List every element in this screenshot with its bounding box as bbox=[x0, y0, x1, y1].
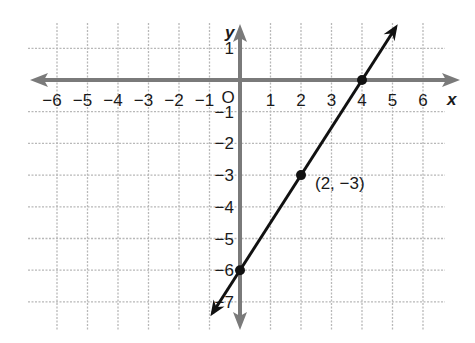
tick-labels: −6−5−4−3−2−11234561−1−2−3−4−5−6−7Oxy bbox=[42, 23, 458, 312]
data-point bbox=[296, 170, 306, 180]
x-tick-label: 2 bbox=[296, 91, 305, 110]
x-tick-label: 4 bbox=[357, 91, 366, 110]
y-tick-label: −6 bbox=[215, 261, 234, 280]
data-point bbox=[235, 265, 245, 275]
axes bbox=[30, 24, 460, 330]
y-tick-label: −4 bbox=[215, 198, 234, 217]
y-tick-label: −5 bbox=[215, 230, 234, 249]
origin-label: O bbox=[221, 88, 234, 107]
annotations: (2, −3) bbox=[315, 174, 365, 193]
coordinate-plane: −6−5−4−3−2−11234561−1−2−3−4−5−6−7Oxy (2,… bbox=[0, 0, 475, 343]
x-tick-label: 5 bbox=[388, 91, 397, 110]
line-arrow-up-icon bbox=[384, 24, 398, 41]
x-tick-label: −6 bbox=[42, 91, 61, 110]
x-tick-label: −5 bbox=[73, 91, 92, 110]
x-tick-label: −3 bbox=[134, 91, 153, 110]
x-tick-label: 3 bbox=[327, 91, 336, 110]
y-tick-label: −2 bbox=[215, 134, 234, 153]
data-point bbox=[357, 75, 367, 85]
grid-lines bbox=[28, 23, 445, 330]
x-tick-label: 6 bbox=[418, 91, 427, 110]
x-tick-label: 1 bbox=[266, 91, 275, 110]
point-label: (2, −3) bbox=[315, 174, 365, 193]
x-tick-label: −2 bbox=[164, 91, 183, 110]
y-tick-label: 1 bbox=[225, 39, 234, 58]
x-tick-label: −4 bbox=[103, 91, 122, 110]
y-axis-label: y bbox=[224, 23, 236, 42]
y-tick-label: −3 bbox=[215, 166, 234, 185]
x-axis-label: x bbox=[446, 90, 458, 109]
x-tick-label: −1 bbox=[195, 91, 214, 110]
